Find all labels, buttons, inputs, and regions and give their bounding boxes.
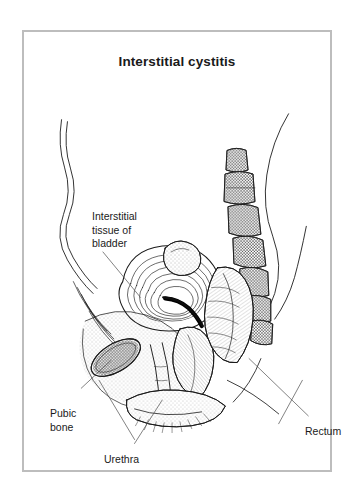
- coccyx: [251, 320, 273, 345]
- thigh-contour: [227, 359, 278, 414]
- leader-rectum: [249, 359, 308, 416]
- label-urethra: Urethra: [104, 453, 139, 467]
- vertebra: [226, 148, 248, 172]
- vertebra: [224, 172, 255, 205]
- vertebra: [228, 204, 261, 236]
- vertebra: [233, 236, 266, 268]
- label-pubic-bone: Pubic bone: [50, 407, 76, 434]
- perineum: [126, 390, 225, 433]
- abdominal-wall-outline: [60, 120, 97, 294]
- leader-rectum-extra: [279, 380, 303, 423]
- uterus: [163, 241, 200, 276]
- pelvis-illustration: [24, 32, 330, 470]
- label-interstitial-tissue-of-bladder: Interstitial tissue of bladder: [92, 210, 137, 251]
- figure-frame: Interstitial cystitis: [22, 30, 332, 472]
- label-rectum: Rectum: [305, 425, 341, 439]
